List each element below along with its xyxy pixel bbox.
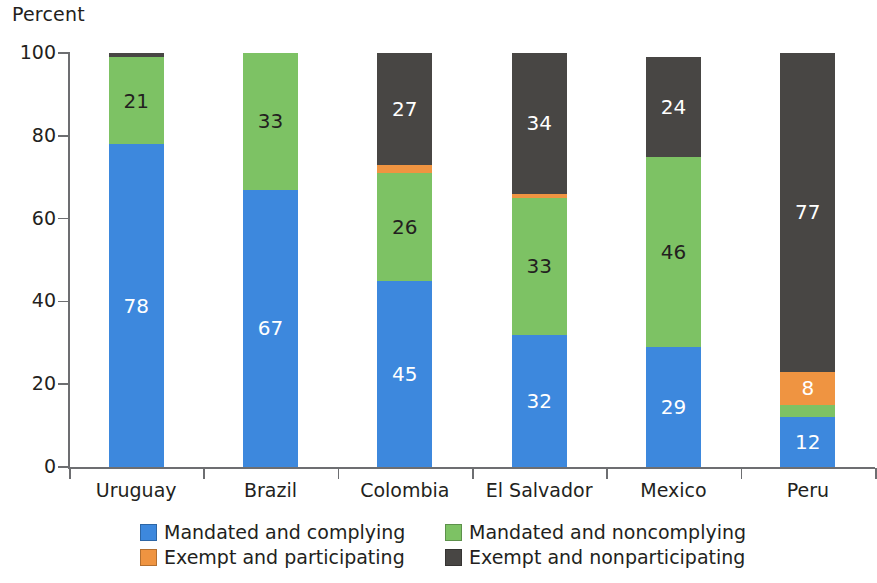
bar-value-label: 32 bbox=[526, 391, 551, 411]
bar-segment: 34 bbox=[512, 53, 567, 194]
y-axis-tick-label: 60 bbox=[10, 209, 56, 228]
bar-segment: 77 bbox=[780, 53, 835, 372]
x-axis-tick bbox=[875, 468, 877, 479]
bar-uruguay[interactable]: 7821 bbox=[109, 53, 164, 467]
bar-segment bbox=[512, 194, 567, 198]
y-axis-tick bbox=[58, 301, 70, 303]
bar-segment: 45 bbox=[377, 281, 432, 467]
bar-value-label: 45 bbox=[392, 364, 417, 384]
bar-segment bbox=[109, 53, 164, 57]
bar-segment: 21 bbox=[109, 57, 164, 144]
legend-swatch-dark bbox=[445, 549, 462, 566]
bar-segment: 8 bbox=[780, 372, 835, 405]
y-axis-tick bbox=[58, 218, 70, 220]
bar-segment: 33 bbox=[243, 53, 298, 190]
bar-segment: 33 bbox=[512, 198, 567, 335]
x-axis-tick bbox=[606, 468, 608, 479]
bar-peru[interactable]: 12877 bbox=[780, 53, 835, 467]
y-axis-tick-label: 100 bbox=[10, 43, 56, 62]
bar-value-label: 12 bbox=[795, 432, 820, 452]
legend-item-mandated-and-noncomplying[interactable]: Mandated and noncomplying bbox=[445, 522, 746, 543]
bar-segment: 78 bbox=[109, 144, 164, 467]
bar-segment: 26 bbox=[377, 173, 432, 281]
bar-value-label: 34 bbox=[526, 113, 551, 133]
bar-value-label: 26 bbox=[392, 217, 417, 237]
bar-value-label: 33 bbox=[526, 256, 551, 276]
legend-label: Mandated and noncomplying bbox=[469, 522, 746, 543]
bar-value-label: 8 bbox=[801, 378, 814, 398]
bar-value-label: 77 bbox=[795, 202, 820, 222]
bar-value-label: 67 bbox=[258, 318, 283, 338]
legend-swatch-orange bbox=[140, 549, 157, 566]
y-axis-tick bbox=[58, 135, 70, 137]
bars-container: 7821673345262732333429462412877 bbox=[69, 53, 875, 467]
x-axis-tick bbox=[741, 468, 743, 479]
bar-segment: 29 bbox=[646, 347, 701, 467]
y-axis-tick-label: 40 bbox=[10, 291, 56, 310]
bar-value-label: 21 bbox=[123, 91, 148, 111]
bar-colombia[interactable]: 452627 bbox=[377, 53, 432, 467]
bar-brazil[interactable]: 6733 bbox=[243, 53, 298, 467]
y-axis-tick-label: 80 bbox=[10, 126, 56, 145]
legend-label: Exempt and nonparticipating bbox=[469, 547, 745, 568]
legend-label: Mandated and complying bbox=[164, 522, 405, 543]
legend-row-1: Mandated and complying Mandated and nonc… bbox=[140, 522, 877, 543]
bar-segment bbox=[377, 165, 432, 173]
y-axis-tick bbox=[58, 383, 70, 385]
bar-value-label: 24 bbox=[661, 97, 686, 117]
bar-segment: 24 bbox=[646, 57, 701, 156]
bar-segment: 27 bbox=[377, 53, 432, 165]
y-axis-tick-label: 20 bbox=[10, 374, 56, 393]
y-axis-tick bbox=[58, 52, 70, 54]
legend-label: Exempt and participating bbox=[164, 547, 405, 568]
legend-swatch-blue bbox=[140, 524, 157, 541]
x-axis-tick bbox=[203, 468, 205, 479]
legend-item-exempt-and-nonparticipating[interactable]: Exempt and nonparticipating bbox=[445, 547, 745, 568]
bar-segment bbox=[780, 405, 835, 417]
y-axis-tick-label: 0 bbox=[10, 457, 56, 476]
bar-segment: 32 bbox=[512, 335, 567, 467]
bar-value-label: 27 bbox=[392, 99, 417, 119]
bar-value-label: 29 bbox=[661, 397, 686, 417]
x-axis-tick bbox=[338, 468, 340, 479]
x-axis-category-label: Peru bbox=[718, 479, 877, 501]
legend-row-2: Exempt and participating Exempt and nonp… bbox=[140, 547, 877, 568]
bar-segment: 12 bbox=[780, 417, 835, 467]
legend-item-mandated-and-complying[interactable]: Mandated and complying bbox=[140, 522, 445, 543]
bar-value-label: 78 bbox=[123, 296, 148, 316]
x-axis-tick bbox=[69, 468, 71, 479]
bar-el-salvador[interactable]: 323334 bbox=[512, 53, 567, 467]
bar-mexico[interactable]: 294624 bbox=[646, 53, 701, 467]
bar-segment: 46 bbox=[646, 157, 701, 347]
bar-segment: 67 bbox=[243, 190, 298, 467]
legend-item-exempt-and-participating[interactable]: Exempt and participating bbox=[140, 547, 445, 568]
chart-legend: Mandated and complying Mandated and nonc… bbox=[140, 522, 877, 572]
bar-value-label: 33 bbox=[258, 111, 283, 131]
bar-value-label: 46 bbox=[661, 242, 686, 262]
x-axis-tick bbox=[472, 468, 474, 479]
legend-swatch-green bbox=[445, 524, 462, 541]
stacked-bar-chart: Percent 100806040200 7821673345262732333… bbox=[0, 0, 877, 583]
